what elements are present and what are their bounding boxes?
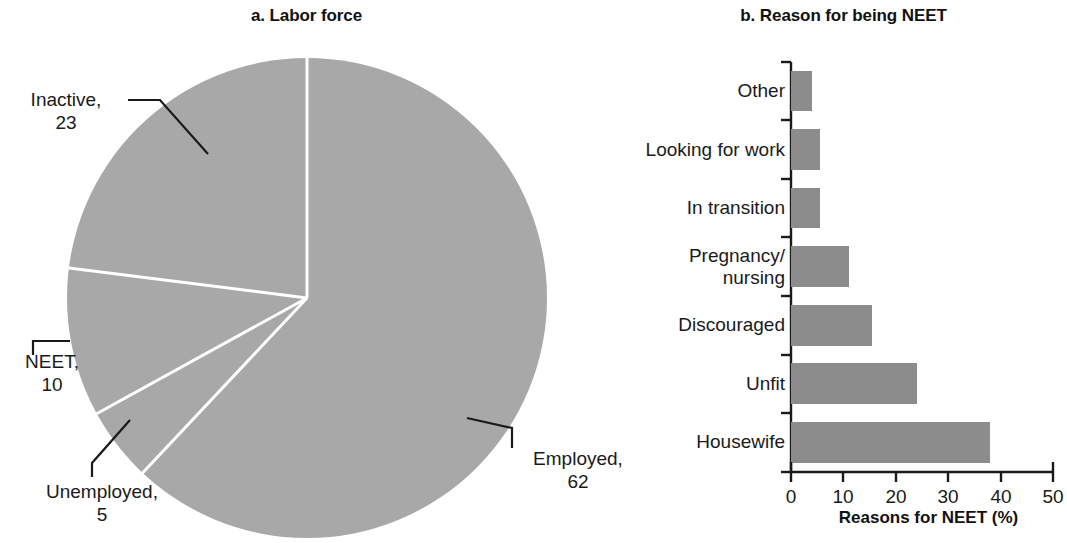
pie-label-inactive-name: Inactive, xyxy=(31,89,102,110)
bar-unfit xyxy=(791,363,917,404)
figure-root: a. Labor force Inactive, 23 xyxy=(0,0,1067,543)
pie-label-unemployed-value: 5 xyxy=(10,503,194,526)
bar-other xyxy=(791,71,812,111)
pie-label-neet-value: 10 xyxy=(6,373,98,396)
x-axis-title: Reasons for NEET (%) xyxy=(790,508,1067,528)
bar-category-pregnancy: Pregnancy/ xyxy=(613,245,785,267)
bar-category-other: Other xyxy=(613,80,785,102)
bar-housewife xyxy=(791,422,990,463)
pie-label-inactive: Inactive, 23 xyxy=(6,88,126,134)
bar-pregnancy-nursing xyxy=(791,246,849,287)
pie-label-inactive-value: 23 xyxy=(6,111,126,134)
bar-looking-for-work xyxy=(791,129,820,170)
panel-b-reason-neet: b. Reason for being NEET Other Looking f… xyxy=(613,0,1067,543)
pie-label-neet: NEET, 10 xyxy=(6,350,98,396)
pie-label-unemployed: Unemployed, 5 xyxy=(10,480,194,526)
bar-category-nursing: nursing xyxy=(613,267,785,289)
x-tick-label-10: 10 xyxy=(823,486,863,508)
x-tick-label-0: 0 xyxy=(771,486,811,508)
pie-label-unemployed-name: Unemployed, xyxy=(46,481,158,502)
panel-b-title: b. Reason for being NEET xyxy=(620,6,1067,26)
pie-label-employed-name: Employed, xyxy=(533,448,623,469)
x-tick-label-20: 20 xyxy=(876,486,916,508)
bar-category-housewife: Housewife xyxy=(613,431,785,453)
pie-label-neet-name: NEET, xyxy=(25,351,79,372)
panel-a-labor-force: a. Labor force Inactive, 23 xyxy=(0,0,613,543)
bar-in-transition xyxy=(791,188,820,228)
bar-category-in-transition: In transition xyxy=(613,197,785,219)
x-tick-label-40: 40 xyxy=(981,486,1021,508)
bar-category-looking-for-work: Looking for work xyxy=(613,139,785,161)
bar-category-unfit: Unfit xyxy=(613,373,785,395)
bar-category-discouraged: Discouraged xyxy=(613,314,785,336)
bar-discouraged xyxy=(791,305,872,346)
x-tick-label-50: 50 xyxy=(1033,486,1067,508)
x-tick-label-30: 30 xyxy=(928,486,968,508)
